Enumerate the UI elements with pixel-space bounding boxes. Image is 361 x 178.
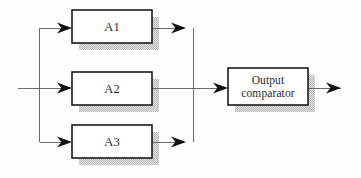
block-a1[interactable]	[72, 10, 152, 43]
block-output-comparator[interactable]	[228, 68, 308, 105]
diagram-vector-layer	[0, 0, 361, 178]
block-a3[interactable]	[72, 125, 152, 158]
block-diagram-canvas: A1 A2 A3 Output comparator	[0, 0, 361, 178]
block-a2[interactable]	[72, 72, 152, 105]
block-outlines	[72, 10, 308, 158]
